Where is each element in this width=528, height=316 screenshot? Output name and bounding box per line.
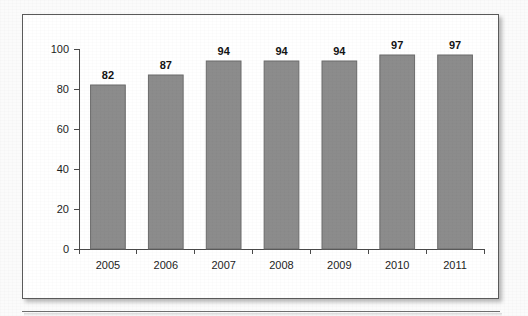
chart-card: 0204060801008220058720069420079420089420… [22, 14, 499, 299]
x-axis-category-label: 2009 [327, 259, 351, 271]
y-axis-tick-label: 20 [57, 203, 69, 215]
x-axis-category-label: 2010 [385, 259, 409, 271]
bar [322, 61, 357, 249]
y-axis-tick-label: 60 [57, 123, 69, 135]
y-axis-tick-label: 0 [63, 243, 69, 255]
bar-value-label: 97 [391, 39, 403, 51]
bar-value-label: 94 [275, 45, 288, 57]
bar-value-label: 82 [102, 69, 114, 81]
bar [438, 55, 473, 249]
x-axis-category-label: 2005 [96, 259, 120, 271]
bar [380, 55, 415, 249]
bar [206, 61, 241, 249]
bar-chart: 0204060801008220058720069420079420089420… [23, 15, 498, 298]
bar [91, 85, 126, 249]
bar [264, 61, 299, 249]
x-axis-category-label: 2011 [443, 259, 467, 271]
bar-value-label: 94 [218, 45, 231, 57]
bar-value-label: 87 [160, 59, 172, 71]
x-axis-category-label: 2008 [269, 259, 293, 271]
bar [148, 75, 183, 249]
y-axis-tick-label: 80 [57, 83, 69, 95]
bar-value-label: 94 [333, 45, 346, 57]
bottom-separator-rule [22, 311, 500, 312]
y-axis-tick-label: 100 [51, 43, 69, 55]
bar-value-label: 97 [449, 39, 461, 51]
x-axis-category-label: 2007 [211, 259, 235, 271]
x-axis-category-label: 2006 [154, 259, 178, 271]
y-axis-tick-label: 40 [57, 163, 69, 175]
